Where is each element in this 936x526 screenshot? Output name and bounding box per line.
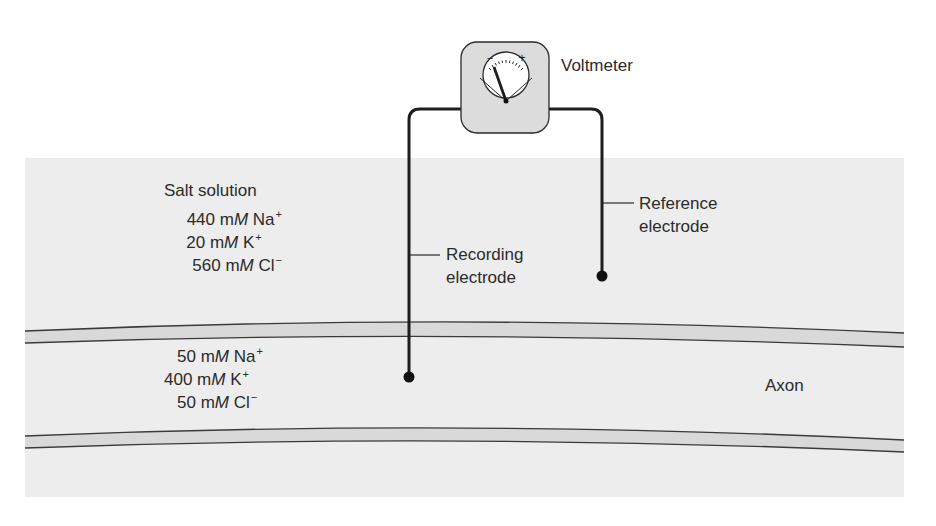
inside-ion-na: 50 mM Na+ — [164, 345, 288, 368]
axon-label: Axon — [765, 376, 804, 396]
voltmeter-minus-sign: − — [487, 52, 493, 64]
inside-ion-k: 400 mM K+ — [164, 368, 288, 391]
reference-electrode-tip — [597, 271, 608, 282]
reference-label-line2: electrode — [639, 215, 717, 238]
voltmeter: − + — [461, 42, 549, 133]
inside-ion-cl: 50 mM Cl− — [164, 391, 288, 414]
salt-solution-title: Salt solution — [164, 181, 257, 201]
reference-electrode-label: Reference electrode — [639, 192, 717, 238]
outside-ion-na: 440 mM Na+ — [160, 208, 282, 231]
inside-ion-list: 50 mM Na+ 400 mM K+ 50 mM Cl− — [164, 345, 288, 414]
recording-electrode-label: Recording electrode — [446, 243, 524, 289]
reference-label-line1: Reference — [639, 192, 717, 215]
recording-label-line2: electrode — [446, 266, 524, 289]
axon-recording-diagram: − + Voltmeter Reference electrode Record… — [0, 0, 936, 526]
outside-ion-cl: 560 mM Cl− — [160, 254, 282, 277]
recording-label-line1: Recording — [446, 243, 524, 266]
outside-ion-list: 440 mM Na+ 20 mM K+ 560 mM Cl− — [160, 208, 282, 277]
voltmeter-plus-sign: + — [518, 51, 525, 65]
outside-ion-k: 20 mM K+ — [160, 231, 282, 254]
recording-electrode-tip — [404, 372, 415, 383]
voltmeter-label: Voltmeter — [561, 56, 633, 76]
